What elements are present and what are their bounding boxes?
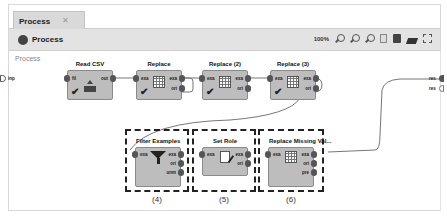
output-port-ori[interactable] bbox=[245, 160, 251, 167]
filter-funnel-icon bbox=[150, 151, 166, 159]
port-label: exa bbox=[303, 76, 311, 81]
annotation-5: (5) bbox=[212, 195, 236, 204]
port-label: pre bbox=[302, 170, 309, 175]
table-icon bbox=[219, 76, 231, 88]
port-label: exa bbox=[235, 76, 243, 81]
process-canvas[interactable]: inp res res Read CSV fil out ✔ Replace e… bbox=[0, 0, 447, 216]
process-output-port-1[interactable] bbox=[439, 75, 444, 82]
table-icon bbox=[153, 76, 165, 88]
port-label: ori bbox=[171, 86, 177, 91]
operator-title: Replace (2) bbox=[203, 61, 247, 67]
checkmark-icon: ✔ bbox=[274, 87, 282, 97]
output-port-exa[interactable] bbox=[179, 75, 185, 82]
operator-replace-missing-values[interactable]: Replace Missing Val... exa exa ori pre bbox=[268, 147, 314, 187]
operator-filter-examples[interactable]: Filter Examples exa exa ori unm bbox=[135, 147, 181, 187]
port-label: exa bbox=[168, 152, 176, 157]
port-label: exa bbox=[235, 152, 243, 157]
input-port-exa[interactable] bbox=[265, 151, 271, 158]
operator-replace-3[interactable]: Replace (3) exa exa ori ✔ bbox=[270, 70, 316, 100]
process-input-label: inp bbox=[8, 76, 15, 81]
port-label: exa bbox=[207, 76, 215, 81]
output-port-ori[interactable] bbox=[179, 85, 185, 92]
port-label: exa bbox=[275, 76, 283, 81]
input-port-exa[interactable] bbox=[132, 151, 138, 158]
process-output-label-1: res bbox=[429, 76, 436, 81]
output-port-exa[interactable] bbox=[245, 75, 251, 82]
checkmark-icon: ✔ bbox=[71, 87, 79, 97]
input-port-exa[interactable] bbox=[267, 75, 273, 82]
output-port-ori[interactable] bbox=[311, 160, 317, 167]
port-label: exa bbox=[140, 152, 148, 157]
output-port-pre[interactable] bbox=[311, 169, 317, 176]
port-label: exa bbox=[169, 76, 177, 81]
operator-title: Replace (3) bbox=[271, 61, 315, 67]
process-output-label-2: res bbox=[429, 86, 436, 91]
annotation-6: (6) bbox=[279, 195, 303, 204]
output-port-ori[interactable] bbox=[245, 85, 251, 92]
checkmark-icon: ✔ bbox=[206, 87, 214, 97]
table-missing-icon bbox=[285, 151, 297, 163]
annotation-4: (4) bbox=[145, 195, 169, 204]
output-port-ori[interactable] bbox=[178, 160, 184, 167]
table-icon bbox=[287, 76, 299, 88]
operator-title: Read CSV bbox=[68, 61, 112, 67]
port-label: ori bbox=[303, 161, 309, 166]
operator-title: Filter Examples bbox=[136, 138, 180, 144]
port-label: out bbox=[101, 76, 108, 81]
output-port-unm[interactable] bbox=[178, 169, 184, 176]
output-port-ori[interactable] bbox=[313, 85, 319, 92]
port-label: exa bbox=[141, 76, 149, 81]
port-label: fil bbox=[72, 76, 76, 81]
operator-title: Replace bbox=[137, 61, 181, 67]
process-output-port-2[interactable] bbox=[439, 85, 444, 92]
port-label: exa bbox=[207, 152, 215, 157]
input-port-exa[interactable] bbox=[199, 151, 205, 158]
operator-title: Replace Missing Val... bbox=[269, 138, 313, 144]
output-port-out[interactable] bbox=[110, 75, 116, 82]
output-port-exa[interactable] bbox=[313, 75, 319, 82]
input-port-exa[interactable] bbox=[199, 75, 205, 82]
input-port-fil[interactable] bbox=[64, 75, 70, 82]
port-label: ori bbox=[170, 161, 176, 166]
operator-replace[interactable]: Replace exa exa ori ✔ bbox=[136, 70, 182, 100]
port-label: unm bbox=[167, 170, 177, 175]
output-port-exa[interactable] bbox=[311, 151, 317, 158]
checkmark-icon: ✔ bbox=[140, 87, 148, 97]
operator-read-csv[interactable]: Read CSV fil out ✔ bbox=[67, 70, 113, 100]
read-csv-icon bbox=[84, 80, 96, 92]
port-label: exa bbox=[301, 152, 309, 157]
operator-title: Set Role bbox=[203, 138, 247, 144]
output-port-exa[interactable] bbox=[245, 151, 251, 158]
port-label: ori bbox=[237, 86, 243, 91]
set-role-edit-icon bbox=[220, 151, 230, 163]
output-port-exa[interactable] bbox=[178, 151, 184, 158]
operator-set-role[interactable]: Set Role exa exa ori bbox=[202, 147, 248, 176]
port-label: ori bbox=[305, 86, 311, 91]
input-port-exa[interactable] bbox=[133, 75, 139, 82]
port-label: ori bbox=[237, 161, 243, 166]
port-label: exa bbox=[273, 152, 281, 157]
operator-replace-2[interactable]: Replace (2) exa exa ori ✔ bbox=[202, 70, 248, 100]
